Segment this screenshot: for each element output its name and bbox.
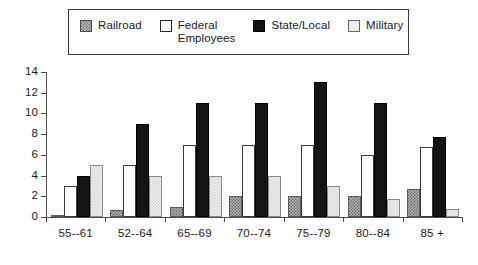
bar-state-local [196, 103, 209, 217]
y-axis-tick [41, 134, 46, 135]
bar-railroad [110, 210, 123, 217]
bar-railroad [229, 196, 242, 217]
x-axis-category-label: 80--84 [343, 227, 402, 239]
y-axis-tick [41, 93, 46, 94]
bar-federal [301, 145, 314, 218]
y-axis-tick-label: 6 [4, 148, 38, 160]
x-axis-tick [46, 217, 47, 222]
bar-federal [420, 147, 433, 217]
bar-military [446, 209, 459, 217]
y-tick-label-wrap: 0 [0, 217, 38, 218]
federal-swatch-icon [160, 20, 172, 32]
x-axis-category-label: 75--79 [284, 227, 343, 239]
bar-military [327, 186, 340, 217]
y-axis-tick-label: 10 [4, 106, 38, 118]
bar-military [268, 176, 281, 217]
bar-federal [242, 145, 255, 218]
legend-item: Railroad [80, 19, 142, 32]
legend-item: Military [348, 19, 403, 32]
y-axis-tick-label: 0 [4, 210, 38, 222]
legend-item-list: RailroadFederal EmployeesState/LocalMili… [69, 10, 408, 54]
y-tick-label-wrap: 12 [0, 93, 38, 94]
legend-item-label: Military [366, 19, 403, 32]
bar-railroad [288, 196, 301, 217]
chart-plot-area: 02468101214 55--6152--6465--6970--7475--… [0, 60, 478, 265]
x-axis-tick [105, 217, 106, 222]
y-axis-tick-label: 8 [4, 127, 38, 139]
bar-state-local [136, 124, 149, 217]
y-tick-label-wrap: 2 [0, 196, 38, 197]
state-local-swatch-icon [253, 20, 265, 32]
bar-group [170, 72, 222, 217]
y-axis-tick [41, 176, 46, 177]
legend-item-label: Federal Employees [178, 19, 236, 45]
y-axis-tick-label: 2 [4, 189, 38, 201]
x-axis-category-label: 85 + [403, 227, 462, 239]
y-axis-tick-label: 14 [4, 65, 38, 77]
x-axis-tick [462, 217, 463, 222]
bar-military [387, 199, 400, 217]
bar-federal [64, 186, 77, 217]
legend-item-label: State/Local [271, 19, 330, 32]
bar-railroad [51, 215, 64, 217]
bar-group [51, 72, 103, 217]
y-axis-tick [41, 113, 46, 114]
x-axis-tick [165, 217, 166, 222]
bar-group [229, 72, 281, 217]
x-axis-category-label: 70--74 [224, 227, 283, 239]
x-axis-tick [343, 217, 344, 222]
bar-military [209, 176, 222, 217]
y-tick-label-wrap: 6 [0, 155, 38, 156]
x-axis-category-label: 65--69 [165, 227, 224, 239]
y-tick-label-wrap: 4 [0, 176, 38, 177]
y-axis-line [46, 72, 47, 218]
bar-state-local [314, 82, 327, 217]
bar-state-local [374, 103, 387, 217]
legend-item: State/Local [253, 19, 330, 32]
bar-group [288, 72, 340, 217]
bar-railroad [170, 207, 183, 217]
bar-state-local [255, 103, 268, 217]
legend-item-label: Railroad [98, 19, 142, 32]
x-axis-tick [284, 217, 285, 222]
y-tick-label-wrap: 10 [0, 113, 38, 114]
y-tick-label-wrap: 14 [0, 72, 38, 73]
y-axis-tick [41, 72, 46, 73]
y-tick-label-wrap: 8 [0, 134, 38, 135]
bar-military [90, 165, 103, 217]
bar-group [407, 72, 459, 217]
railroad-swatch-icon [80, 20, 92, 32]
y-axis-tick [41, 155, 46, 156]
x-axis-tick [224, 217, 225, 222]
military-swatch-icon [348, 20, 360, 32]
y-axis-tick [41, 196, 46, 197]
bar-state-local [433, 137, 446, 217]
bar-group [348, 72, 400, 217]
bar-group [110, 72, 162, 217]
x-axis-tick [403, 217, 404, 222]
bar-railroad [348, 196, 361, 217]
legend-item: Federal Employees [160, 19, 236, 45]
x-axis-line [46, 217, 462, 218]
bar-federal [183, 145, 196, 218]
x-axis-category-label: 52--64 [105, 227, 164, 239]
bar-state-local [77, 176, 90, 217]
bar-railroad [407, 189, 420, 217]
chart-legend: RailroadFederal EmployeesState/LocalMili… [68, 9, 409, 55]
x-axis-category-label: 55--61 [46, 227, 105, 239]
bar-federal [123, 165, 136, 217]
y-axis-tick-label: 12 [4, 86, 38, 98]
bar-military [149, 176, 162, 217]
y-axis-tick-label: 4 [4, 169, 38, 181]
bar-federal [361, 155, 374, 217]
